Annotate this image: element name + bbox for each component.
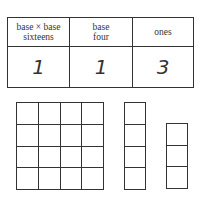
block-cell <box>39 168 61 190</box>
digit-value: 1 <box>70 46 132 87</box>
block-cell <box>125 103 146 125</box>
block-cell <box>39 125 61 147</box>
column-sixteens: base × base sixteens 1 <box>8 18 70 87</box>
long-block-4x1 <box>124 102 146 190</box>
block-cell <box>125 147 146 169</box>
block-cell <box>82 168 104 190</box>
unit-blocks-3x1 <box>166 123 188 189</box>
block-cell <box>17 103 39 125</box>
column-header: base × base sixteens <box>8 18 69 47</box>
block-cell <box>82 125 104 147</box>
block-cell <box>61 168 83 190</box>
block-cell <box>82 147 104 169</box>
block-cell <box>125 168 146 190</box>
block-cell <box>39 147 61 169</box>
place-value-table: base × base sixteens 1 base four 1 ones … <box>7 17 194 88</box>
block-cell <box>167 167 188 189</box>
flat-block-4x4 <box>16 102 104 190</box>
block-cell <box>82 103 104 125</box>
column-fours: base four 1 <box>70 18 133 87</box>
block-cell <box>17 125 39 147</box>
column-ones: ones 3 <box>133 18 193 87</box>
header-line-1: base × base <box>17 22 61 32</box>
block-cell <box>125 125 146 147</box>
header-line-2: sixteens <box>17 32 61 42</box>
block-cell <box>61 103 83 125</box>
header-line-1: ones <box>154 27 171 37</box>
header-line-1: base <box>93 22 110 32</box>
block-cell <box>167 124 188 146</box>
block-cell <box>17 147 39 169</box>
column-header: ones <box>133 18 193 47</box>
digit-value: 3 <box>133 46 193 87</box>
block-cell <box>167 146 188 168</box>
header-line-2: four <box>93 32 110 42</box>
column-header: base four <box>70 18 132 47</box>
block-cell <box>39 103 61 125</box>
digit-value: 1 <box>8 46 69 87</box>
block-cell <box>17 168 39 190</box>
block-cell <box>61 147 83 169</box>
block-cell <box>61 125 83 147</box>
